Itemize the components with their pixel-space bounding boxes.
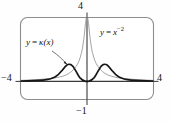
kappa-label-equals: =: [32, 37, 37, 47]
power-label-y: y: [100, 27, 104, 37]
kappa-label-function: κ(x): [39, 37, 53, 47]
curvature-graph-figure: 4 −1 −4 4 y=κ(x) y=x−2: [0, 0, 170, 124]
curve-label-inverse-square: y=x−2: [100, 26, 124, 37]
kappa-label-y: y: [26, 37, 30, 47]
axis-label-right: 4: [157, 73, 162, 83]
axis-label-top: 4: [78, 1, 83, 11]
power-label-exponent: −2: [117, 25, 124, 32]
axis-label-bottom: −1: [76, 106, 87, 116]
axis-label-left: −4: [1, 73, 12, 83]
power-label-equals: =: [106, 27, 111, 37]
curve-label-kappa: y=κ(x): [26, 38, 53, 47]
